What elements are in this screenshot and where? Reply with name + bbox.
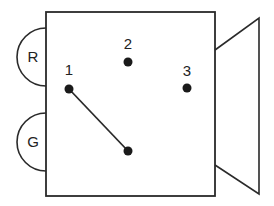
lobe-r-label: R (28, 48, 39, 65)
point-1-label: 1 (65, 61, 73, 78)
point-1-dot (65, 85, 74, 94)
pivot-dot (124, 147, 133, 156)
lever-arm (69, 89, 128, 151)
lever-diagram: R G 1 2 3 (0, 0, 274, 206)
point-3-label: 3 (183, 62, 191, 79)
diagram-canvas: R G 1 2 3 (0, 0, 274, 206)
point-2-label: 2 (124, 35, 132, 52)
point-2-dot (124, 58, 133, 67)
point-3-dot (183, 84, 192, 93)
lobe-g-label: G (27, 133, 39, 150)
cone-shape (215, 18, 259, 194)
